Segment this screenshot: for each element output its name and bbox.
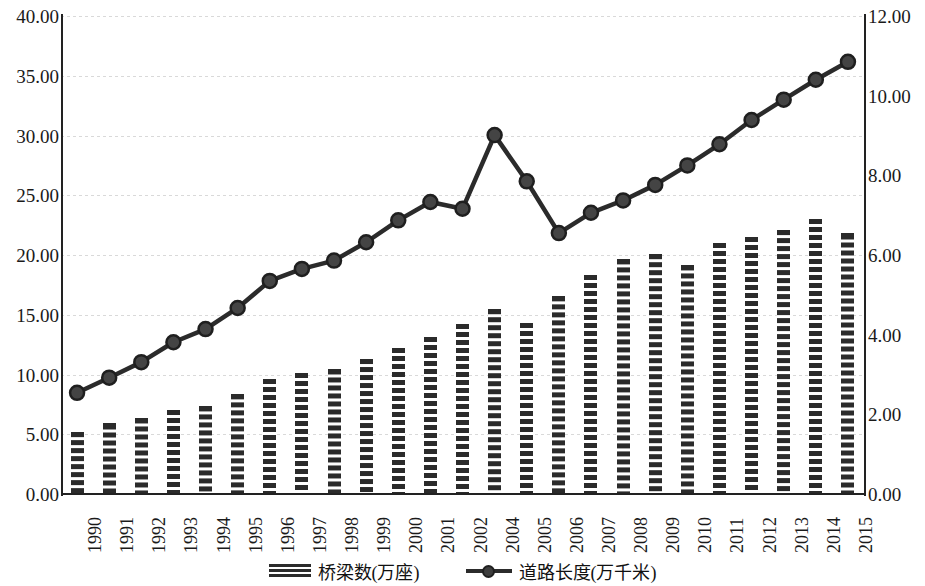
line-marker <box>648 178 662 192</box>
y-axis-left-line <box>61 14 63 496</box>
y-axis-left-tick-label: 25.00 <box>16 186 59 205</box>
legend-item-qiaoliangshu[interactable]: 桥梁数(万座) <box>269 558 420 584</box>
line-marker <box>327 254 341 268</box>
x-axis-tick-label: 1998 <box>343 517 361 553</box>
y-axis-right-line <box>864 14 866 496</box>
x-axis-tick-label: 1991 <box>118 517 136 553</box>
y-axis-right-tick-label: 2.00 <box>868 405 901 424</box>
y-axis-left-tick-label: 35.00 <box>16 67 59 86</box>
x-axis-tick-label: 2008 <box>632 517 650 553</box>
y-axis-right-tick-label: 10.00 <box>868 87 911 106</box>
line-marker <box>423 195 437 209</box>
line-marker <box>712 137 726 151</box>
x-axis-line <box>61 493 866 495</box>
line-marker <box>295 262 309 276</box>
x-axis-tick-label: 2013 <box>793 517 811 553</box>
line-marker <box>199 322 213 336</box>
legend-label-daolu-changdu: 道路长度(万千米) <box>519 558 657 584</box>
x-axis-tick-label: 2002 <box>472 517 490 553</box>
line-swatch-icon <box>466 564 512 578</box>
line-marker <box>745 113 759 127</box>
x-axis-tick-label: 1999 <box>375 517 393 553</box>
x-axis-tick-label: 2011 <box>728 518 746 553</box>
line-series-daolu-changdu <box>61 16 864 494</box>
line-marker <box>520 174 534 188</box>
x-axis-tick-label: 2010 <box>696 517 714 553</box>
x-axis-tick-label: 1997 <box>311 517 329 553</box>
line-marker <box>841 55 855 69</box>
y-axis-right-tick-label: 8.00 <box>868 166 901 185</box>
y-axis-left-tick-label: 5.00 <box>26 425 59 444</box>
y-axis-right-tick-label: 12.00 <box>868 7 911 26</box>
y-axis-right-tick-label: 0.00 <box>868 485 901 504</box>
y-axis-left-tick-label: 15.00 <box>16 306 59 325</box>
x-axis-tick-label: 1994 <box>215 517 233 553</box>
x-axis-tick-label: 2000 <box>407 517 425 553</box>
line-marker <box>616 193 630 207</box>
x-axis-tick-label: 2014 <box>825 517 843 553</box>
line-marker <box>391 213 405 227</box>
x-axis-tick-label: 1996 <box>279 517 297 553</box>
y-axis-left-tick-label: 40.00 <box>16 7 59 26</box>
y-axis-left-tick-label: 20.00 <box>16 246 59 265</box>
x-axis-tick-label: 2001 <box>439 517 457 553</box>
x-axis-tick-label: 2006 <box>568 517 586 553</box>
line-path <box>77 62 848 393</box>
x-axis-tick-label: 2004 <box>504 517 522 553</box>
x-axis-tick-label: 2015 <box>857 517 875 553</box>
x-axis-tick-label: 1993 <box>182 517 200 553</box>
bar-swatch-icon <box>269 564 311 578</box>
line-marker <box>680 158 694 172</box>
x-axis-tick-label: 2012 <box>761 517 779 553</box>
chart-canvas: 0.005.0010.0015.0020.0025.0030.0035.0040… <box>0 0 925 586</box>
line-marker <box>809 73 823 87</box>
line-marker <box>70 386 84 400</box>
y-axis-left-tick-label: 0.00 <box>26 485 59 504</box>
y-axis-left-tick-label: 10.00 <box>16 366 59 385</box>
line-marker <box>456 202 470 216</box>
y-axis-left-tick-label: 30.00 <box>16 127 59 146</box>
x-axis-tick-label: 2005 <box>536 517 554 553</box>
line-marker <box>777 93 791 107</box>
line-marker <box>102 371 116 385</box>
line-marker <box>488 128 502 142</box>
x-axis-tick-label: 2009 <box>664 517 682 553</box>
line-marker <box>231 301 245 315</box>
legend-label-qiaoliangshu: 桥梁数(万座) <box>318 558 420 584</box>
line-marker <box>359 235 373 249</box>
x-axis-tick-label: 1992 <box>150 517 168 553</box>
x-axis-tick-label: 2007 <box>600 517 618 553</box>
legend-item-daolu-changdu[interactable]: 道路长度(万千米) <box>466 558 657 584</box>
line-marker <box>263 274 277 288</box>
line-marker <box>166 335 180 349</box>
line-marker <box>584 206 598 220</box>
y-axis-right-tick-label: 6.00 <box>868 246 901 265</box>
plot-area <box>61 16 864 494</box>
chart-legend: 桥梁数(万座) 道路长度(万千米) <box>0 556 925 586</box>
line-marker <box>134 355 148 369</box>
line-marker <box>552 226 566 240</box>
x-axis-tick-label: 1990 <box>86 517 104 553</box>
y-axis-right-tick-label: 4.00 <box>868 326 901 345</box>
x-axis-tick-label: 1995 <box>247 517 265 553</box>
